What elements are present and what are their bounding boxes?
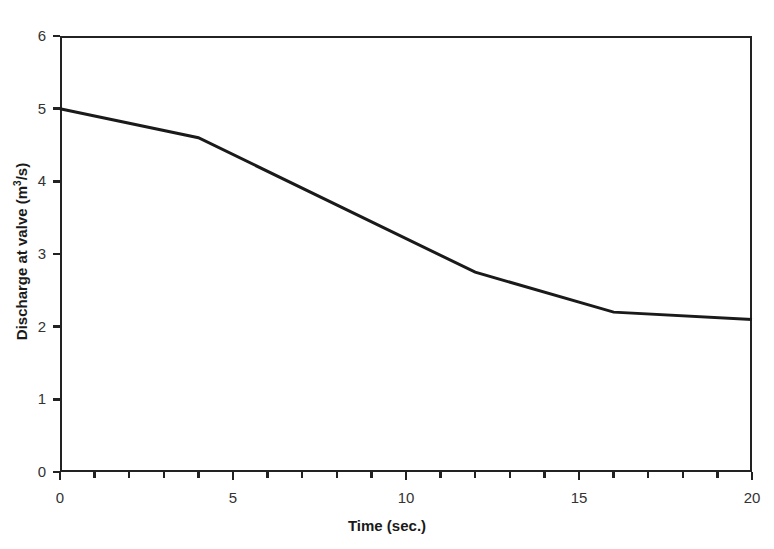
x-tick-mark-minor <box>336 472 339 478</box>
x-tick-mark-minor <box>370 472 373 478</box>
x-tick-label: 0 <box>35 490 85 505</box>
y-tick-mark <box>53 253 60 256</box>
y-axis-title-exponent: 3 <box>12 180 23 186</box>
y-tick-label: 6 <box>6 28 46 43</box>
y-tick-mark <box>53 35 60 38</box>
x-axis-title: Time (sec.) <box>0 517 774 534</box>
x-tick-mark-major <box>59 472 62 480</box>
x-tick-mark-minor <box>612 472 615 478</box>
x-tick-label: 20 <box>727 490 774 505</box>
y-tick-label: 1 <box>6 391 46 406</box>
x-tick-mark-minor <box>128 472 131 478</box>
x-tick-mark-minor <box>543 472 546 478</box>
chart-title <box>0 0 774 3</box>
x-tick-mark-minor <box>197 472 200 478</box>
chart-figure: 0123456 05101520 Time (sec.) Discharge a… <box>0 0 774 549</box>
y-tick-mark <box>53 325 60 328</box>
data-series-line <box>60 109 752 320</box>
x-tick-mark-minor <box>266 472 269 478</box>
x-tick-label: 10 <box>381 490 431 505</box>
y-tick-label: 5 <box>6 101 46 116</box>
x-tick-mark-minor <box>682 472 685 478</box>
x-tick-mark-minor <box>163 472 166 478</box>
x-tick-mark-minor <box>509 472 512 478</box>
y-tick-mark <box>53 107 60 110</box>
y-axis-title: Discharge at valve (m3/s) <box>13 137 30 367</box>
y-tick-mark <box>53 180 60 183</box>
x-tick-mark-minor <box>439 472 442 478</box>
data-line-layer <box>60 36 752 472</box>
x-tick-mark-major <box>232 472 235 480</box>
x-tick-label: 5 <box>208 490 258 505</box>
x-tick-mark-major <box>751 472 754 480</box>
x-tick-mark-minor <box>474 472 477 478</box>
y-axis-title-prefix: Discharge at valve (m <box>13 186 30 340</box>
y-tick-mark <box>53 398 60 401</box>
y-axis-title-suffix: /s) <box>13 163 30 181</box>
x-tick-label: 15 <box>554 490 604 505</box>
x-tick-mark-minor <box>716 472 719 478</box>
y-tick-label: 0 <box>6 464 46 479</box>
x-tick-mark-major <box>405 472 408 480</box>
x-tick-mark-minor <box>647 472 650 478</box>
x-tick-mark-minor <box>93 472 96 478</box>
x-tick-mark-major <box>578 472 581 480</box>
x-tick-mark-minor <box>301 472 304 478</box>
